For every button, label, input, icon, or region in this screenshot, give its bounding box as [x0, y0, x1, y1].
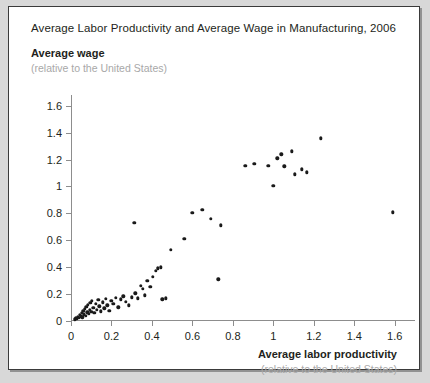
y-tick-label: 0.2 — [47, 288, 62, 300]
data-point — [143, 294, 146, 297]
data-point — [267, 164, 270, 167]
x-tick — [192, 321, 193, 326]
data-point — [132, 221, 135, 224]
data-point — [127, 303, 130, 306]
data-point — [391, 211, 394, 214]
y-tick-label: 1.6 — [47, 100, 62, 112]
x-tick — [233, 321, 234, 326]
data-point — [244, 164, 247, 167]
data-point — [99, 310, 102, 313]
y-axis-sublabel: (relative to the United States) — [31, 62, 167, 74]
data-point — [134, 292, 137, 295]
data-point — [106, 303, 109, 306]
x-axis-label: Average labor productivity — [258, 348, 397, 360]
y-tick-label: 1.2 — [47, 154, 62, 166]
y-tick — [66, 133, 71, 134]
data-point — [93, 311, 96, 314]
data-point — [136, 297, 139, 300]
x-tick — [395, 321, 396, 326]
data-point — [300, 168, 303, 171]
data-point — [101, 300, 104, 303]
y-tick-label: 0.4 — [47, 261, 62, 273]
y-tick-label: 0.6 — [47, 234, 62, 246]
data-point — [169, 248, 172, 251]
data-point — [130, 296, 133, 299]
data-point — [159, 265, 162, 268]
data-point — [149, 285, 152, 288]
data-point — [119, 298, 122, 301]
y-axis-label: Average wage — [31, 47, 105, 59]
data-point — [305, 171, 308, 174]
x-tick-label: 0.8 — [225, 330, 240, 342]
data-point — [209, 217, 212, 220]
data-point — [283, 165, 286, 168]
x-tick — [273, 321, 274, 326]
y-tick — [66, 160, 71, 161]
x-tick — [354, 321, 355, 326]
data-point — [293, 173, 296, 176]
data-point — [84, 314, 87, 317]
data-point — [98, 304, 101, 307]
data-point — [154, 269, 157, 272]
x-axis-line — [71, 320, 415, 321]
data-point — [108, 309, 111, 312]
data-point — [200, 208, 203, 211]
y-tick-label: 0 — [56, 315, 62, 327]
data-point — [191, 211, 194, 214]
data-point — [217, 278, 220, 281]
scatter-plot-area: 00.20.40.60.811.21.41.6 00.20.40.60.811.… — [71, 95, 415, 321]
x-tick — [152, 321, 153, 326]
data-point — [272, 184, 275, 187]
y-tick-label: 0.8 — [47, 207, 62, 219]
x-tick-label: 1 — [270, 330, 276, 342]
x-tick-label: 1.4 — [347, 330, 362, 342]
data-point — [112, 302, 115, 305]
x-tick-label: 1.6 — [387, 330, 402, 342]
data-point — [280, 153, 283, 156]
data-point — [117, 306, 120, 309]
y-axis-line — [71, 95, 72, 321]
data-point — [96, 298, 99, 301]
x-tick-label: 0.2 — [104, 330, 119, 342]
data-point — [219, 224, 222, 227]
x-tick-label: 1.2 — [306, 330, 321, 342]
data-point — [276, 157, 279, 160]
y-tick — [66, 267, 71, 268]
data-point — [290, 150, 293, 153]
x-tick-label: 0.4 — [144, 330, 159, 342]
y-tick — [66, 240, 71, 241]
data-point — [146, 279, 149, 282]
x-tick-label: 0.6 — [185, 330, 200, 342]
data-point — [102, 307, 105, 310]
x-tick — [314, 321, 315, 326]
data-point — [319, 137, 322, 140]
y-tick-label: 1.4 — [47, 127, 62, 139]
data-point — [141, 287, 144, 290]
data-point — [122, 294, 125, 297]
y-tick — [66, 186, 71, 187]
data-point — [252, 162, 255, 165]
y-tick — [66, 106, 71, 107]
data-point — [104, 297, 107, 300]
y-tick-label: 1 — [56, 180, 62, 192]
data-point — [95, 308, 98, 311]
x-tick — [71, 321, 72, 326]
chart-title: Average Labor Productivity and Average W… — [31, 22, 396, 34]
x-tick-label: 0 — [68, 330, 74, 342]
x-tick — [111, 321, 112, 326]
y-tick — [66, 213, 71, 214]
chart-card: Average Labor Productivity and Average W… — [8, 6, 420, 370]
data-point — [114, 296, 117, 299]
data-point — [183, 237, 186, 240]
data-point — [164, 297, 167, 300]
data-point — [151, 275, 154, 278]
x-axis-sublabel: (relative to the United States) — [261, 363, 397, 375]
y-tick — [66, 294, 71, 295]
